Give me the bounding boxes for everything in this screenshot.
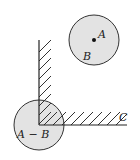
- label-region-b: B: [82, 50, 91, 63]
- disk-b: [69, 15, 119, 65]
- label-a-minus-b: A − B: [16, 128, 49, 141]
- label-point-a: A: [97, 28, 106, 41]
- point-a-dot: [92, 38, 96, 42]
- label-obstacle-c: C: [119, 111, 128, 124]
- diagram-canvas: A B A − B C: [0, 0, 140, 160]
